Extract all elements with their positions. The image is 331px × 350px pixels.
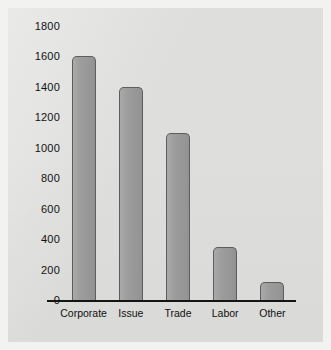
plot-area: 020040060080010001200140016001800 Corpor… bbox=[0, 0, 331, 350]
y-axis-tick-400: 400 bbox=[14, 234, 60, 245]
bar-other bbox=[260, 282, 284, 300]
y-axis-tick-labels: 020040060080010001200140016001800 bbox=[14, 0, 60, 350]
x-axis-tick-other: Other bbox=[259, 307, 285, 319]
bar-chart-screenshot: 020040060080010001200140016001800 Corpor… bbox=[0, 0, 331, 350]
bar-issue bbox=[119, 87, 143, 300]
x-axis-tick-issue: Issue bbox=[118, 307, 143, 319]
x-axis-tick-corporate: Corporate bbox=[60, 307, 107, 319]
y-axis-tick-1200: 1200 bbox=[14, 112, 60, 123]
y-axis-tick-1000: 1000 bbox=[14, 142, 60, 153]
y-axis-tick-200: 200 bbox=[14, 264, 60, 275]
y-axis-tick-600: 600 bbox=[14, 203, 60, 214]
y-axis-tick-800: 800 bbox=[14, 173, 60, 184]
x-axis-tick-labor: Labor bbox=[212, 307, 239, 319]
bar-trade bbox=[166, 133, 190, 300]
x-axis-line bbox=[47, 300, 296, 302]
bar-corporate bbox=[72, 56, 96, 300]
bar-labor bbox=[213, 247, 237, 300]
y-axis-tick-1800: 1800 bbox=[14, 21, 60, 32]
x-axis-tick-trade: Trade bbox=[164, 307, 191, 319]
y-axis-tick-1600: 1600 bbox=[14, 51, 60, 62]
y-axis-tick-1400: 1400 bbox=[14, 81, 60, 92]
